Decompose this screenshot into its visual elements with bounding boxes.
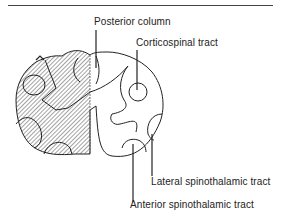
lateral-spinothalamic-region bbox=[148, 114, 162, 140]
label-lateral-spinothalamic-tract: Lateral spinothalamic tract bbox=[151, 176, 270, 187]
spinal-cord-diagram bbox=[0, 0, 282, 221]
label-anterior-spinothalamic-tract: Anterior spinothalamic tract bbox=[130, 199, 254, 210]
label-posterior-column: Posterior column bbox=[94, 16, 171, 27]
label-corticospinal-tract: Corticospinal tract bbox=[136, 37, 218, 48]
hatched-lesion-area bbox=[16, 51, 90, 155]
anterior-spinothalamic-region bbox=[122, 139, 146, 152]
corticospinal-tract-region bbox=[129, 83, 147, 101]
